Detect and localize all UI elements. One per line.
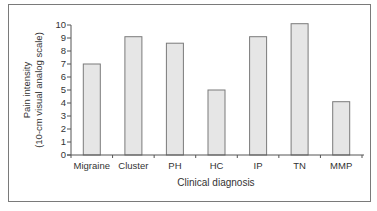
bar-tn	[291, 24, 308, 155]
bar-hc	[208, 90, 225, 155]
y-axis-label-line-2: (10-cm visual analog scale)	[33, 20, 45, 160]
y-tick-label: 8	[52, 46, 66, 56]
x-axis-label: Clinical diagnosis	[71, 177, 361, 188]
x-tick-label: MMP	[321, 160, 361, 171]
bar-migraine	[83, 64, 100, 155]
y-tick-label: 0	[52, 150, 66, 160]
y-tick-label: 1	[52, 137, 66, 147]
y-tick-label: 2	[52, 124, 66, 134]
x-tick-label: PH	[155, 160, 195, 171]
y-tick-label: 9	[52, 33, 66, 43]
bar-ip	[250, 37, 267, 155]
x-tick-label: Cluster	[113, 160, 153, 171]
y-tick-label: 10	[52, 20, 66, 30]
y-tick-label: 6	[52, 72, 66, 82]
y-tick-label: 7	[52, 59, 66, 69]
bar-mmp	[333, 102, 350, 155]
y-tick-label: 3	[52, 111, 66, 121]
x-tick-label: HC	[197, 160, 237, 171]
y-axis-label: Pain intensity (10-cm visual analog scal…	[21, 20, 51, 160]
x-tick-label: Migraine	[72, 160, 112, 171]
y-tick-label: 5	[52, 85, 66, 95]
x-tick-label: TN	[280, 160, 320, 171]
bar-ph	[166, 43, 183, 155]
bars	[83, 24, 349, 155]
y-axis-label-line-1: Pain intensity	[21, 20, 33, 160]
x-tick-label: IP	[238, 160, 278, 171]
bar-cluster	[125, 37, 142, 155]
y-tick-label: 4	[52, 98, 66, 108]
